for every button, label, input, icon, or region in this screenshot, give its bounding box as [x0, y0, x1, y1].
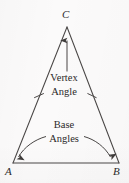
vertex-angle-caption: Vertex Angle — [34, 71, 94, 98]
base-angles-caption-line-2: Angles — [34, 132, 94, 146]
isosceles-triangle-figure: C A B Vertex Angle Base Angles — [0, 0, 129, 183]
base-angles-caption-line-1: Base — [34, 118, 94, 132]
vertex-label-b: B — [113, 166, 120, 177]
vertex-angle-caption-line-2: Angle — [34, 85, 94, 99]
vertex-angle-caption-line-1: Vertex — [34, 71, 94, 85]
vertex-label-c: C — [62, 9, 69, 20]
vertex-label-a: A — [5, 166, 12, 177]
base-angles-caption: Base Angles — [34, 118, 94, 145]
